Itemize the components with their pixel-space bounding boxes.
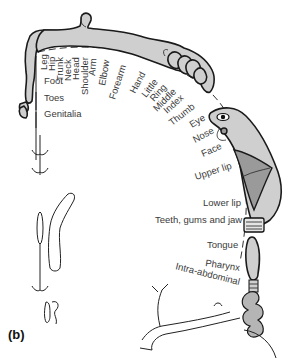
label-genitalia: Genitalia — [44, 108, 82, 119]
label-teeth: Teeth, gums and jaw — [155, 214, 242, 225]
label-arm: Arm — [86, 58, 98, 76]
branch-lower — [140, 318, 240, 350]
vessel-small — [214, 303, 222, 306]
labels-right: Lower lip Teeth, gums and jaw Tongue Pha… — [155, 197, 242, 287]
label-face: Face — [199, 140, 223, 159]
label-elbow: Elbow — [96, 59, 111, 87]
label-tongue: Tongue — [207, 239, 238, 250]
spine-markings — [32, 135, 75, 324]
pharynx-shape — [249, 280, 258, 292]
vessel-left — [152, 284, 168, 326]
branch-upper — [142, 312, 230, 340]
panel-label: (b) — [8, 327, 25, 342]
teeth-shape — [244, 218, 264, 232]
label-toes: Toes — [44, 92, 64, 103]
homunculus-diagram: Leg Hip Trunk Neck Head Shoulder Arm Elb… — [0, 0, 290, 358]
label-lower-lip: Lower lip — [203, 197, 241, 208]
label-foot: Foot — [44, 75, 63, 86]
nose-shape — [221, 128, 227, 134]
label-upper-lip: Upper lip — [193, 160, 233, 182]
tongue-shape — [246, 237, 259, 280]
genitalia-shape — [19, 106, 27, 118]
